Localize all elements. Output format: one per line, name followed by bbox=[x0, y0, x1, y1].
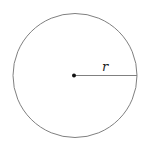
circle-diagram: r bbox=[0, 0, 148, 146]
center-point bbox=[72, 74, 76, 78]
radius-label: r bbox=[102, 59, 109, 74]
diagram-canvas: r bbox=[0, 0, 148, 146]
